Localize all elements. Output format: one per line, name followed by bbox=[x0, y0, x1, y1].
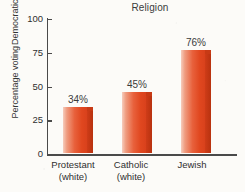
x-category-sublabel: (white) bbox=[40, 171, 106, 183]
bar-side-face bbox=[87, 110, 93, 153]
y-tick-label-25: 25 bbox=[17, 114, 43, 125]
bar-value-label: 76% bbox=[186, 37, 206, 48]
chart-figure: Religion Percentage voting Democratic 10… bbox=[0, 0, 245, 192]
bar-side-face bbox=[146, 95, 152, 153]
bar-jewish[interactable]: 76% bbox=[181, 50, 211, 153]
bar-top-face bbox=[146, 92, 152, 96]
plot-area: 100 75 50 25 0 34% bbox=[47, 18, 237, 155]
bar-catholic[interactable]: 45% bbox=[122, 92, 152, 153]
bar-front-face bbox=[122, 92, 146, 153]
x-category-protestant: Protestant (white) bbox=[40, 159, 106, 183]
y-tick-label-0: 0 bbox=[17, 148, 43, 159]
bar-body bbox=[122, 92, 152, 153]
bar-front-face bbox=[181, 50, 205, 153]
bar-top-face bbox=[87, 107, 93, 111]
x-category-jewish: Jewish bbox=[161, 159, 223, 171]
x-category-label: Jewish bbox=[177, 159, 206, 170]
y-tick-label-50: 50 bbox=[17, 81, 43, 92]
x-category-label: Protestant bbox=[51, 159, 94, 170]
bar-body bbox=[63, 107, 93, 153]
bar-top-face bbox=[205, 50, 211, 54]
y-tick-label-75: 75 bbox=[17, 47, 43, 58]
bar-body bbox=[181, 50, 211, 153]
x-category-catholic: Catholic (white) bbox=[100, 159, 162, 183]
y-tick-label-100: 100 bbox=[17, 13, 43, 24]
chart-title: Religion bbox=[95, 2, 205, 13]
bar-value-label: 45% bbox=[127, 79, 147, 90]
bar-protestant[interactable]: 34% bbox=[63, 107, 93, 153]
bar-front-face bbox=[63, 107, 87, 153]
bar-value-label: 34% bbox=[68, 94, 88, 105]
x-axis-line bbox=[47, 154, 237, 156]
x-category-label: Catholic bbox=[114, 159, 148, 170]
bar-side-face bbox=[205, 53, 211, 153]
x-category-sublabel: (white) bbox=[100, 171, 162, 183]
